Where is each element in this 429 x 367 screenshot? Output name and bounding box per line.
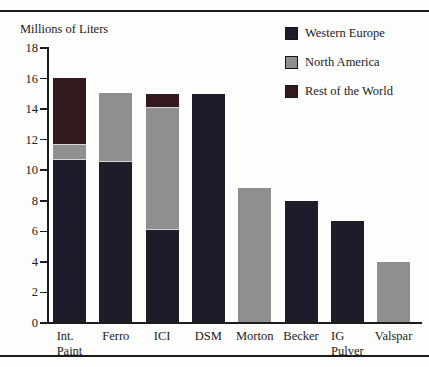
y-tick-label: 18: [12, 40, 38, 56]
x-axis-line: [47, 322, 422, 324]
legend: Western EuropeNorth AmericaRest of the W…: [285, 27, 393, 97]
x-category-label: DSM: [195, 329, 222, 344]
bar-segment: [53, 78, 86, 145]
top-rule: [0, 10, 429, 12]
legend-item: North America: [285, 56, 393, 68]
bar-segment: [331, 221, 364, 322]
bar-segment: [99, 93, 132, 162]
bar-segment: [99, 162, 132, 322]
y-tick-label: 12: [12, 132, 38, 148]
y-tick: [40, 78, 48, 80]
legend-label: Western Europe: [305, 27, 385, 39]
y-tick-label: 2: [12, 284, 38, 300]
y-tick-label: 4: [12, 254, 38, 270]
bar: [99, 93, 132, 322]
y-tick-label: 14: [12, 101, 38, 117]
legend-swatch: [285, 27, 298, 40]
bar: [146, 94, 179, 322]
y-tick-label: 16: [12, 71, 38, 87]
y-tick: [40, 139, 48, 141]
bar: [53, 78, 86, 322]
bar-segment: [53, 145, 86, 160]
bar-segment: [53, 160, 86, 322]
y-tick: [40, 108, 48, 110]
bar: [285, 201, 318, 322]
legend-swatch: [285, 56, 298, 69]
bar-segment: [146, 94, 179, 108]
bar-segment: [377, 262, 410, 322]
y-axis-title: Millions of Liters: [20, 22, 108, 37]
bar-segment: [192, 94, 225, 322]
y-tick: [40, 47, 48, 49]
bar: [238, 188, 271, 322]
bar: [377, 262, 410, 322]
legend-swatch: [285, 85, 298, 98]
x-category-label: Ferro: [102, 329, 129, 344]
legend-item: Western Europe: [285, 27, 393, 39]
y-tick-label: 10: [12, 162, 38, 178]
y-axis-line: [47, 47, 49, 324]
legend-item: Rest of the World: [285, 85, 393, 97]
y-tick-label: 0: [12, 315, 38, 331]
y-tick: [40, 231, 48, 233]
bar-segment: [285, 201, 318, 322]
y-tick-label: 6: [12, 223, 38, 239]
y-tick: [40, 200, 48, 202]
x-category-label: Valspar: [375, 329, 413, 344]
legend-label: Rest of the World: [305, 85, 393, 97]
bottom-rule: [0, 355, 429, 357]
x-category-label: Morton: [236, 329, 274, 344]
y-tick-label: 8: [12, 193, 38, 209]
legend-label: North America: [305, 56, 380, 68]
x-category-label: Becker: [283, 329, 318, 344]
bar: [192, 94, 225, 322]
y-tick: [40, 261, 48, 263]
bar-segment: [238, 188, 271, 322]
y-tick: [40, 292, 48, 294]
y-tick: [40, 322, 48, 324]
bar: [331, 221, 364, 322]
bar-segment: [146, 230, 179, 322]
chart-figure: Millions of Liters Western EuropeNorth A…: [0, 0, 429, 367]
x-category-label: ICI: [154, 329, 171, 344]
y-tick: [40, 169, 48, 171]
bar-segment: [146, 108, 179, 230]
